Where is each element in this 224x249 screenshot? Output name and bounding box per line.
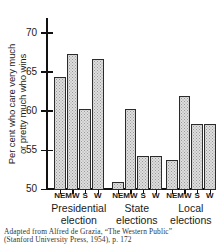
bar (79, 109, 91, 190)
category-label-s: S (82, 191, 87, 201)
y-axis-tick-label: 70 (26, 28, 37, 38)
y-axis-tick-label: 60 (26, 106, 37, 116)
group-label: Localelections (170, 202, 211, 226)
bar (92, 59, 104, 190)
plot-area: 5055606570 (46, 18, 214, 190)
group-labels: PresidentialelectionStateelectionsLocale… (40, 202, 220, 230)
group-label: Stateelections (116, 202, 157, 226)
y-axis-title-line1: Per cent who care very much (6, 44, 17, 164)
y-axis-tick-label: 65 (26, 67, 37, 77)
y-axis-title: Per cent who care very much or pretty mu… (0, 16, 34, 192)
group-label-line2: elections (116, 214, 157, 226)
group-label-line2: elections (170, 214, 211, 226)
category-label-w: W (206, 191, 214, 201)
y-axis-tick: 65 (41, 71, 53, 72)
group-label-line2: election (51, 214, 106, 226)
category-label-ne: NE (166, 191, 177, 201)
bar (125, 109, 137, 190)
category-label-ne: NE (112, 191, 123, 201)
y-axis-tick: 60 (41, 110, 53, 111)
bar (179, 96, 191, 190)
category-label-w: W (94, 191, 102, 201)
bar (204, 124, 216, 190)
group-label: Presidentialelection (51, 202, 106, 226)
category-label-mw: MW (123, 191, 137, 201)
bar (54, 77, 66, 190)
group-label-line1: State (116, 202, 157, 214)
bar (191, 124, 203, 190)
y-axis-tick: 70 (41, 32, 53, 33)
bar (112, 182, 124, 190)
bar (166, 160, 178, 190)
category-label-ne: NE (54, 191, 65, 201)
y-axis-tick: 50 (41, 189, 53, 190)
bar (67, 54, 79, 190)
y-axis-tick-label: 50 (26, 184, 37, 194)
y-axis-tick-label: 55 (26, 145, 37, 155)
category-label-s: S (140, 191, 145, 201)
y-axis-tick: 55 (41, 150, 53, 151)
bar (137, 156, 149, 190)
source-caption: Adapted from Alfred de Grazia, “The West… (4, 228, 220, 245)
caption-line-2: (Stanford University Press, 1954), p. 17… (4, 236, 220, 244)
category-label-mw: MW (177, 191, 191, 201)
category-label-mw: MW (65, 191, 79, 201)
category-label-s: S (194, 191, 199, 201)
group-label-line1: Presidential (51, 202, 106, 214)
bar (150, 156, 162, 190)
chart-figure: Per cent who care very much or pretty mu… (0, 0, 224, 249)
y-axis-line (46, 18, 48, 190)
category-label-w: W (152, 191, 160, 201)
group-label-line1: Local (170, 202, 211, 214)
